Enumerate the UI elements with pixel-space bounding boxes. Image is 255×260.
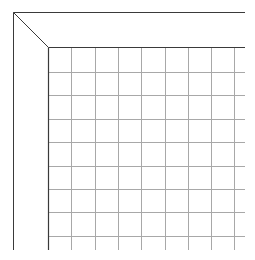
- back-wall-grid: [48, 47, 245, 250]
- perspective-grid-diagram: [0, 0, 255, 260]
- corner-diagonal-edge: [14, 13, 49, 48]
- room-frame: [14, 13, 246, 251]
